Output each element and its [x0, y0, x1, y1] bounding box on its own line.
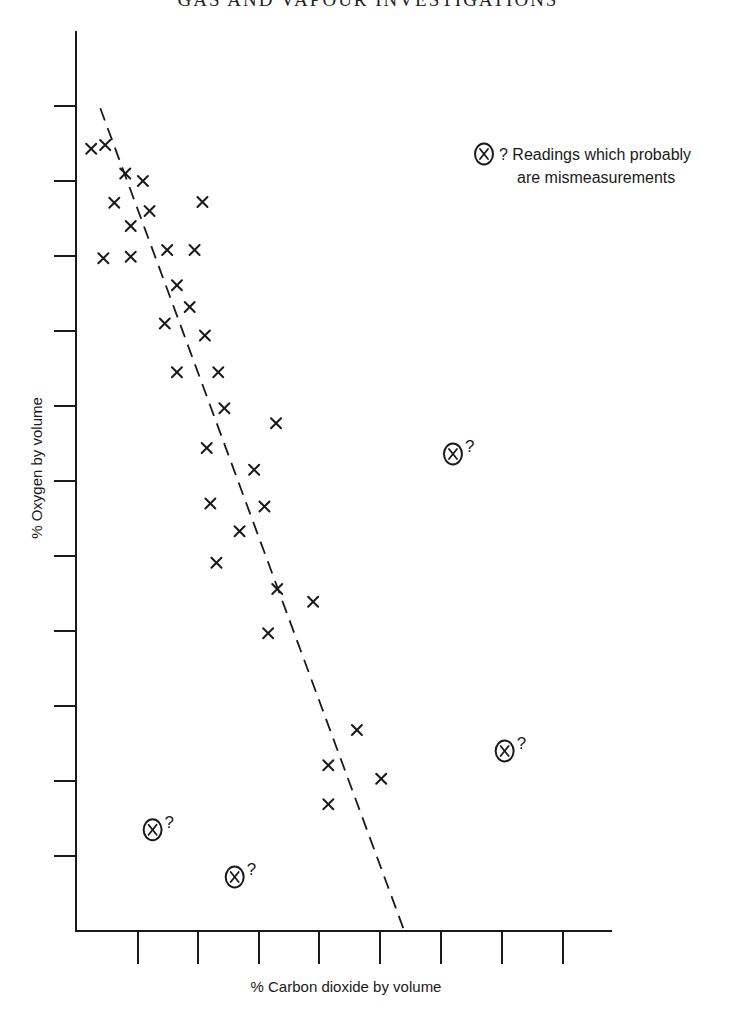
x-marker-icon: [213, 367, 223, 377]
x-marker-icon: [211, 558, 221, 568]
x-axis-label: % Carbon dioxide by volume: [251, 978, 442, 995]
y-axis-label: % Oxygen by volume: [28, 397, 45, 539]
x-marker-icon: [160, 319, 170, 329]
legend: ? Readings which probably are mismeasure…: [475, 144, 691, 187]
x-marker-icon: [200, 331, 210, 341]
dashed-trendline: [100, 108, 404, 931]
x-marker-icon: [172, 367, 182, 377]
question-mark-annotation: ?: [247, 860, 256, 879]
x-marker-icon: [219, 403, 229, 413]
x-marker-icon: [352, 725, 362, 735]
x-marker-icon: [100, 140, 110, 150]
x-marker-icon: [271, 418, 281, 428]
x-marker-icon: [259, 502, 269, 512]
x-marker-icon: [323, 799, 333, 809]
x-marker-icon: [263, 628, 273, 638]
x-marker-icon: [98, 253, 108, 263]
x-marker-icon: [185, 302, 195, 312]
x-marker-icon: [126, 252, 136, 262]
x-marker-icon: [205, 499, 215, 509]
x-marker-icon: [109, 198, 119, 208]
outlier-points: ????: [144, 437, 527, 888]
x-marker-icon: [249, 465, 259, 475]
circled-x-marker-icon: ?: [496, 734, 526, 762]
x-marker-icon: [145, 206, 155, 216]
x-marker-icon: [190, 245, 200, 255]
circled-x-marker-icon: ?: [444, 437, 474, 465]
x-marker-icon: [197, 197, 207, 207]
x-marker-icon: [376, 774, 386, 784]
question-mark-annotation: ?: [165, 813, 174, 832]
question-mark-annotation: ?: [465, 437, 474, 456]
legend-text-line1: ? Readings which probably: [499, 146, 691, 163]
x-marker-icon: [172, 280, 182, 290]
x-marker-icon: [138, 176, 148, 186]
x-marker-icon: [308, 597, 318, 607]
legend-circled-x-icon: [475, 144, 493, 165]
scatter-chart: ???? ? Readings which probably are misme…: [0, 0, 736, 1016]
circled-x-marker-icon: ?: [226, 860, 256, 888]
x-marker-icon: [323, 760, 333, 770]
x-marker-icon: [235, 526, 245, 536]
x-marker-icon: [86, 144, 96, 154]
question-mark-annotation: ?: [517, 734, 526, 753]
x-marker-icon: [126, 221, 136, 231]
legend-text-line2: are mismeasurements: [517, 169, 675, 186]
x-marker-icon: [202, 443, 212, 453]
circled-x-marker-icon: ?: [144, 813, 174, 841]
x-marker-icon: [162, 245, 172, 255]
trend-line: [100, 108, 404, 931]
